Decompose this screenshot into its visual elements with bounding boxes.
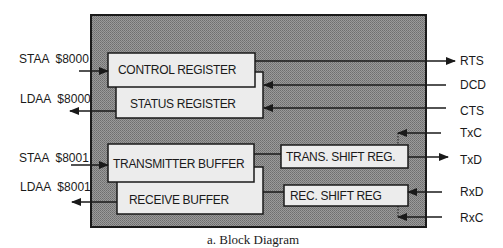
trans-shift-reg-label: TRANS. SHIFT REG.	[286, 150, 395, 164]
block-diagram: STATUS REGISTER CONTROL REGISTER RECEIVE…	[0, 0, 503, 248]
rec-shift-reg-label: REC. SHIFT REG	[290, 189, 382, 203]
staa-8001-label: STAA $8001	[19, 151, 89, 165]
rts-label: RTS	[460, 54, 484, 68]
ldaa-8000-label: LDAA $8000	[20, 92, 91, 106]
receive-buffer-label: RECEIVE BUFFER	[129, 193, 229, 207]
transmitter-buffer-label: TRANSMITTER BUFFER	[113, 157, 245, 171]
control-register-label: CONTROL REGISTER	[118, 63, 237, 77]
cts-label: CTS	[460, 104, 484, 118]
trans-shift-reg-box: TRANS. SHIFT REG.	[281, 145, 408, 168]
transmitter-buffer-box: TRANSMITTER BUFFER	[108, 144, 254, 182]
staa-8000-label: STAA $8000	[19, 52, 89, 66]
rxd-label: RxD	[460, 185, 484, 199]
txc-label: TxC	[460, 126, 482, 140]
control-register-box: CONTROL REGISTER	[108, 53, 255, 87]
rxc-label: RxC	[460, 211, 484, 225]
status-register-label: STATUS REGISTER	[130, 97, 236, 111]
figure-caption: a. Block Diagram	[207, 232, 299, 247]
rec-shift-reg-box: REC. SHIFT REG	[284, 185, 408, 206]
ldaa-8001-label: LDAA $8001	[20, 180, 91, 194]
txd-label: TxD	[460, 153, 482, 167]
dcd-label: DCD	[460, 78, 486, 92]
